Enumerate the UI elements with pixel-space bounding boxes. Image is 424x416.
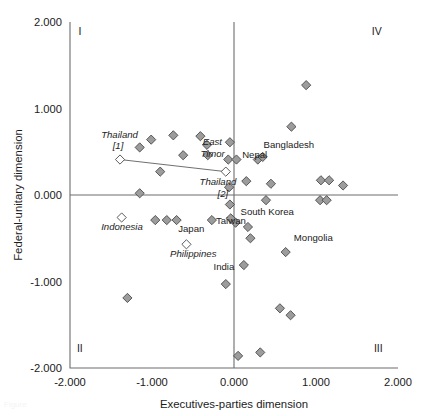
point-label: Timor bbox=[200, 148, 225, 159]
scatter-plot: Thailand[1]EastTimorThailand[2]NepalBang… bbox=[0, 0, 424, 416]
y-tick-label: 0.000 bbox=[34, 189, 62, 201]
data-point bbox=[256, 348, 265, 357]
thailand-connector-line bbox=[120, 160, 226, 172]
point-label: Japan bbox=[178, 223, 204, 234]
data-point bbox=[169, 131, 178, 140]
y-tick-label: 1.000 bbox=[34, 103, 62, 115]
point-label: Taiwan bbox=[216, 215, 246, 226]
data-point bbox=[135, 143, 144, 152]
point-label: Thailand bbox=[101, 129, 138, 140]
data-point bbox=[225, 200, 234, 209]
data-point bbox=[162, 215, 171, 224]
data-point bbox=[275, 304, 284, 313]
x-tick-label: 2.000 bbox=[384, 376, 412, 388]
data-point bbox=[322, 196, 331, 205]
data-point bbox=[232, 155, 241, 164]
data-point bbox=[261, 196, 270, 205]
figure-container: Thailand[1]EastTimorThailand[2]NepalBang… bbox=[0, 0, 424, 416]
point-label: Philippines bbox=[170, 248, 217, 259]
point-label: Mongolia bbox=[294, 232, 334, 243]
connector-segment bbox=[120, 160, 226, 172]
point-label: Indonesia bbox=[101, 221, 143, 232]
quadrant-label-II: II bbox=[77, 342, 83, 354]
y-tick-label: -2.000 bbox=[30, 362, 62, 374]
data-point bbox=[179, 151, 188, 160]
data-point bbox=[115, 155, 124, 164]
y-tick-label: 2.000 bbox=[34, 16, 62, 28]
quadrant-label-III: III bbox=[374, 342, 383, 354]
point-label: [2] bbox=[217, 188, 229, 199]
data-point bbox=[151, 215, 160, 224]
data-point bbox=[242, 177, 251, 186]
data-point-labels: Thailand[1]EastTimorThailand[2]NepalBang… bbox=[101, 129, 333, 272]
zero-reference-lines bbox=[70, 22, 398, 368]
data-point bbox=[239, 260, 248, 269]
data-point bbox=[123, 293, 132, 302]
data-point bbox=[221, 279, 230, 288]
data-point bbox=[325, 176, 334, 185]
data-point bbox=[302, 81, 311, 90]
point-label: Thailand bbox=[200, 176, 237, 187]
data-point bbox=[287, 122, 296, 131]
data-point bbox=[266, 179, 275, 188]
x-axis-title: Executives-parties dimension bbox=[160, 398, 308, 410]
point-label: Nepal bbox=[242, 149, 267, 160]
point-label: India bbox=[214, 261, 235, 272]
data-point bbox=[156, 167, 165, 176]
data-point bbox=[147, 135, 156, 144]
data-point bbox=[281, 247, 290, 256]
point-label: Bangladesh bbox=[264, 139, 315, 150]
x-tick-label: -1.000 bbox=[136, 376, 168, 388]
data-point bbox=[338, 181, 347, 190]
x-tick-label: 0.000 bbox=[220, 376, 248, 388]
point-label: [1] bbox=[112, 140, 124, 151]
data-point bbox=[135, 189, 144, 198]
quadrant-label-IV: IV bbox=[372, 25, 382, 37]
data-point bbox=[286, 311, 295, 320]
x-tick-label: -2.000 bbox=[54, 376, 86, 388]
y-axis-title: Federal-unitary dimension bbox=[12, 129, 24, 261]
point-label: East bbox=[203, 136, 223, 147]
data-point bbox=[234, 351, 243, 360]
axis-tick-labels: -2.000-1.0000.0001.0002.0002.0001.0000.0… bbox=[30, 16, 412, 388]
x-tick-label: 1.000 bbox=[302, 376, 330, 388]
point-label: South Korea bbox=[241, 206, 295, 217]
figure-caption: Figure bbox=[4, 400, 27, 409]
data-point bbox=[246, 234, 255, 243]
data-point bbox=[225, 138, 234, 147]
quadrant-label-I: I bbox=[78, 25, 81, 37]
y-tick-label: -1.000 bbox=[30, 276, 62, 288]
